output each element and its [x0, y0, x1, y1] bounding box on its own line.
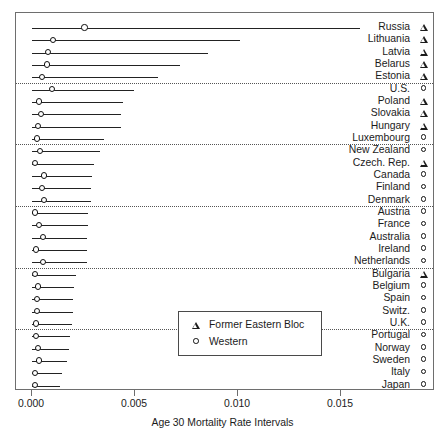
circle-icon	[416, 317, 431, 329]
circle-icon	[416, 231, 431, 243]
confidence-interval-line	[32, 114, 121, 115]
country-label: Ireland	[378, 243, 410, 255]
point-estimate-marker	[32, 370, 38, 376]
country-label: U.K.	[390, 317, 410, 329]
confidence-interval-line	[32, 65, 180, 66]
country-label: Austria	[378, 206, 410, 218]
country-label: Belarus	[375, 58, 410, 70]
interval-row: Czech. Rep.	[16, 158, 433, 170]
interval-row: Belarus	[16, 59, 433, 71]
circle-icon	[416, 144, 431, 156]
circle-icon	[416, 379, 431, 391]
point-estimate-marker	[32, 382, 38, 388]
interval-row: Hungary	[16, 121, 433, 133]
triangle-icon	[416, 95, 431, 107]
legend-item-western: Western	[179, 333, 321, 351]
point-estimate-marker	[40, 234, 46, 240]
legend-item-eastern: Former Eastern Bloc	[179, 316, 321, 334]
interval-row: France	[16, 219, 433, 231]
group-separator	[16, 206, 433, 207]
legend-label-eastern: Former Eastern Bloc	[209, 316, 304, 334]
interval-row: Poland	[16, 96, 433, 108]
circle-icon	[416, 329, 431, 341]
point-estimate-marker	[32, 160, 38, 166]
interval-row: Denmark	[16, 195, 433, 207]
country-label: Finland	[376, 181, 410, 193]
point-estimate-marker	[34, 135, 40, 141]
interval-row: U.S.	[16, 84, 433, 96]
confidence-interval-line	[32, 250, 87, 251]
circle-icon	[416, 354, 431, 366]
country-label: Lithuania	[368, 33, 410, 45]
confidence-interval-line	[32, 164, 94, 165]
interval-row: Luxembourg	[16, 133, 433, 145]
axis-tick-label: 0.005	[121, 398, 147, 409]
circle-icon	[416, 342, 431, 354]
group-separator	[16, 268, 433, 269]
point-estimate-marker	[41, 197, 47, 203]
interval-row: Russia	[16, 22, 433, 34]
interval-row: Estonia	[16, 71, 433, 83]
circle-icon	[188, 333, 204, 351]
point-estimate-marker	[35, 123, 41, 129]
point-estimate-marker	[34, 308, 40, 314]
interval-row: New Zealand	[16, 145, 433, 157]
circle-icon	[416, 280, 431, 292]
interval-row: Ireland	[16, 244, 433, 256]
triangle-icon	[416, 120, 431, 132]
country-label: Italy	[391, 366, 410, 378]
confidence-interval-line	[32, 102, 123, 103]
point-estimate-marker	[33, 333, 39, 339]
mortality-interval-plot: RussiaLithuaniaLatviaBelarusEstoniaU.S.P…	[0, 0, 445, 438]
interval-row: Bulgaria	[16, 269, 433, 281]
point-estimate-marker	[36, 222, 42, 228]
circle-icon	[416, 255, 431, 267]
circle-icon	[416, 83, 431, 95]
interval-row: Slovakia	[16, 108, 433, 120]
country-label: Latvia	[382, 46, 410, 58]
interval-row: Finland	[16, 182, 433, 194]
country-label: France	[378, 218, 410, 230]
confidence-interval-line	[32, 139, 104, 140]
confidence-interval-line	[32, 213, 88, 214]
triangle-icon	[416, 33, 431, 45]
point-estimate-marker	[37, 148, 43, 154]
axis-tick	[237, 390, 238, 396]
circle-icon	[416, 181, 431, 193]
country-label: Switz.	[382, 305, 410, 317]
axis-tick-label: 0.015	[327, 398, 353, 409]
country-label: Spain	[383, 292, 410, 304]
point-estimate-marker	[35, 345, 41, 351]
circle-icon	[416, 206, 431, 218]
triangle-icon	[416, 21, 431, 33]
country-label: Czech. Rep.	[353, 157, 410, 169]
point-estimate-marker	[39, 74, 45, 80]
country-label: Belgium	[372, 280, 410, 292]
interval-row: Italy	[16, 367, 433, 379]
triangle-icon	[188, 316, 204, 334]
point-estimate-marker	[38, 111, 44, 117]
axis-tick	[134, 390, 135, 396]
point-estimate-marker	[32, 271, 38, 277]
point-estimate-marker	[49, 86, 55, 92]
interval-row: Sweden	[16, 355, 433, 367]
country-label: Portugal	[371, 329, 410, 341]
confidence-interval-line	[32, 275, 76, 276]
country-label: Hungary	[371, 120, 410, 132]
point-estimate-marker	[39, 185, 45, 191]
point-estimate-marker	[33, 246, 39, 252]
country-label: Russia	[378, 21, 410, 33]
triangle-icon	[416, 268, 431, 280]
axis-tick-label: 0.000	[18, 398, 44, 409]
confidence-interval-line	[32, 40, 240, 41]
country-label: New Zealand	[349, 144, 410, 156]
country-label: U.S.	[390, 83, 410, 95]
point-estimate-marker	[45, 49, 51, 55]
point-estimate-marker	[41, 172, 47, 178]
interval-row: Australia	[16, 232, 433, 244]
legend-label-western: Western	[209, 333, 248, 351]
circle-icon	[416, 132, 431, 144]
circle-icon	[416, 243, 431, 255]
country-label: Slovakia	[371, 107, 410, 119]
axis-tick-label: 0.010	[224, 398, 250, 409]
